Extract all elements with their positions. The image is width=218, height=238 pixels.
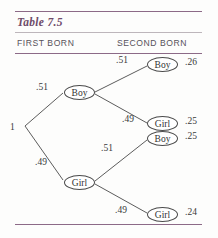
edge-boy-girl xyxy=(95,94,147,123)
node-second-born-boy-boy[interactable]: Boy xyxy=(147,57,178,72)
edge-label-boy-girl: .49 xyxy=(122,114,134,124)
outcome-girl-girl: .24 xyxy=(185,207,197,217)
outcome-boy-boy: .26 xyxy=(185,57,197,67)
edge-root-boy xyxy=(25,93,63,126)
node-second-born-boy-girl[interactable]: Girl xyxy=(147,116,178,131)
outcome-boy-girl: .25 xyxy=(185,116,197,126)
bottom-rule xyxy=(15,224,202,225)
edge-boy-boy xyxy=(95,66,147,92)
node-first-born-girl[interactable]: Girl xyxy=(64,175,95,190)
edge-label-girl-girl: .49 xyxy=(115,205,127,215)
edge-label-root-boy: .51 xyxy=(36,82,48,92)
node-first-born-boy[interactable]: Boy xyxy=(64,85,95,100)
table-figure: Table 7.5 FIRST BORN SECOND BORN 1 Boy G… xyxy=(0,0,218,238)
edge-root-girl xyxy=(25,126,63,180)
outcome-girl-boy: .25 xyxy=(185,131,197,141)
edge-label-girl-boy: .51 xyxy=(101,143,113,153)
edge-label-root-girl: .49 xyxy=(35,157,47,167)
root-probability-label: 1 xyxy=(10,122,15,132)
edge-label-boy-boy: .51 xyxy=(116,55,128,65)
node-second-born-girl-boy[interactable]: Boy xyxy=(147,131,178,146)
node-second-born-girl-girl[interactable]: Girl xyxy=(147,207,178,222)
